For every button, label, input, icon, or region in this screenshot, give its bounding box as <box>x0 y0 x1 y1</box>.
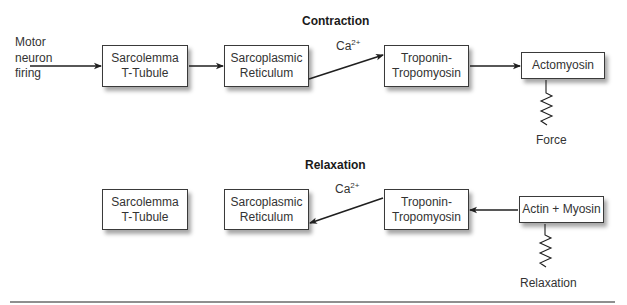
contraction-sarcolemma-box: Sarcolemma T-Tubule <box>102 45 188 87</box>
contraction-actomyosin-box: Actomyosin <box>521 52 605 79</box>
motor-neuron-label-line-3: firing <box>15 66 52 82</box>
force-label: Force <box>536 133 567 147</box>
box-label-line: Troponin- <box>401 195 452 210</box>
contraction-troponin-box: Troponin- Tropomyosin <box>384 45 469 87</box>
relaxation-title: Relaxation <box>305 158 366 172</box>
motor-neuron-label-line-2: neuron <box>15 51 52 67</box>
connector-layer <box>0 0 627 305</box>
box-label-line: Sarcolemma <box>111 195 178 210</box>
calcium-charge: 2+ <box>350 181 359 190</box>
relaxation-sarcoplasmic-box: Sarcoplasmic Reticulum <box>224 189 309 230</box>
motor-neuron-label-line-1: Motor <box>15 35 52 51</box>
relaxation-troponin-box: Troponin- Tropomyosin <box>384 189 469 230</box>
box-label-line: Actomyosin <box>532 58 594 73</box>
box-label-line: Reticulum <box>240 210 293 225</box>
contraction-sarcoplasmic-box: Sarcoplasmic Reticulum <box>224 45 309 87</box>
contraction-title: Contraction <box>302 14 369 28</box>
box-label-line: T-Tubule <box>122 66 169 81</box>
relaxation-sarcolemma-box: Sarcolemma T-Tubule <box>102 189 188 230</box>
calcium-symbol: Ca <box>335 182 350 196</box>
calcium-symbol: Ca <box>336 39 351 53</box>
relaxation-spring-icon <box>540 224 551 267</box>
force-spring-icon <box>541 80 552 125</box>
relaxation-output-label: Relaxation <box>520 276 577 290</box>
contraction-calcium-label: Ca2+ <box>336 38 360 53</box>
box-label-line: T-Tubule <box>122 210 169 225</box>
box-label-line: Tropomyosin <box>392 66 461 81</box>
box-label-line: Troponin- <box>401 51 452 66</box>
box-label-line: Reticulum <box>240 66 293 81</box>
box-label-line: Tropomyosin <box>392 210 461 225</box>
relaxation-actin-myosin-box: Actin + Myosin <box>519 196 604 223</box>
arrow-sarcoplasmic-to-troponin <box>309 55 383 79</box>
box-label-line: Sarcoplasmic <box>230 51 302 66</box>
arrow-troponin-to-sarcoplasmic <box>310 198 383 223</box>
motor-neuron-firing-label: Motor neuron firing <box>15 35 52 82</box>
box-label-line: Sarcolemma <box>111 51 178 66</box>
box-label-line: Sarcoplasmic <box>230 195 302 210</box>
calcium-charge: 2+ <box>351 38 360 47</box>
box-label-line: Actin + Myosin <box>522 202 600 217</box>
relaxation-calcium-label: Ca2+ <box>335 181 359 196</box>
